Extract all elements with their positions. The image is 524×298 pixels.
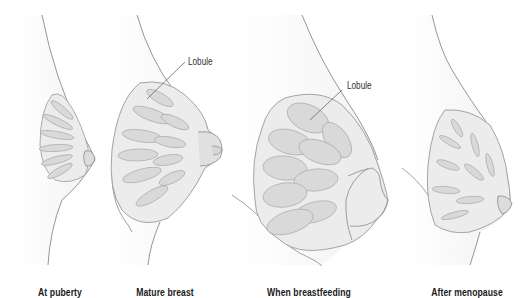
- callout-lobule-breastfeeding: Lobule: [347, 80, 372, 91]
- caption-after-menopause: After menopause: [431, 286, 503, 298]
- breast-stages-diagram: [0, 0, 524, 298]
- caption-at-puberty: At puberty: [38, 286, 82, 298]
- stage-mature-illustration: [108, 15, 222, 265]
- caption-when-breastfeeding: When breastfeeding: [267, 286, 351, 298]
- stage-menopause-illustration: [402, 15, 512, 265]
- callout-lobule-mature: Lobule: [188, 56, 213, 67]
- caption-mature-breast: Mature breast: [136, 286, 194, 298]
- stage-puberty-illustration: [20, 15, 95, 265]
- stage-breastfeeding-illustration: [232, 15, 388, 266]
